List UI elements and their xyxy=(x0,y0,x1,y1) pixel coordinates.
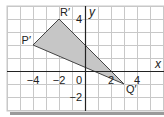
y-tick-label: −2 xyxy=(69,91,82,103)
vertex-label-p: P′ xyxy=(22,34,31,46)
x-tick-label: −2 xyxy=(53,74,66,86)
x-tick-label: −4 xyxy=(27,74,40,86)
frame-shadow xyxy=(10,112,164,115)
y-axis-label: y xyxy=(88,5,96,19)
coordinate-diagram: −4 −2 2 4 4 −2 0 x y P′ R′ Q′ xyxy=(0,0,164,117)
vertex-label-q: Q′ xyxy=(126,83,137,95)
vertex-label-r: R′ xyxy=(60,6,70,18)
x-axis-label: x xyxy=(154,57,162,71)
coordinate-plane: −4 −2 2 4 4 −2 0 x y P′ R′ Q′ xyxy=(0,0,164,117)
origin-label: 0 xyxy=(76,74,82,86)
y-tick-label: 4 xyxy=(76,13,82,25)
x-tick-label: 2 xyxy=(108,74,114,86)
